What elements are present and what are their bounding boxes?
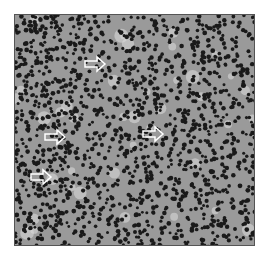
micrograph-image [14,14,255,246]
cell-texture [15,15,255,246]
